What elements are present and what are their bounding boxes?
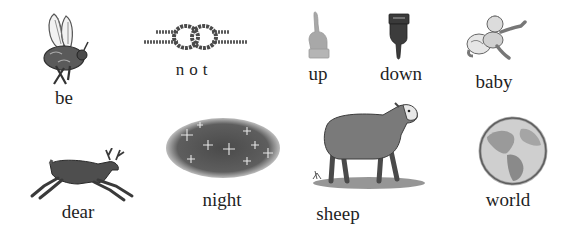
deer-icon: [28, 148, 140, 204]
word-label-night: night: [202, 190, 241, 209]
knot-icon: [142, 22, 252, 54]
hand-pointing-up-icon: [303, 10, 333, 62]
word-label-down: down: [380, 64, 422, 83]
globe-icon: [477, 115, 549, 187]
starry-night-icon: [163, 115, 283, 181]
bee-icon: [36, 10, 98, 86]
crawling-baby-icon: [463, 12, 529, 64]
word-label-up: up: [309, 64, 328, 83]
word-label-not: not: [176, 61, 213, 78]
word-label-baby: baby: [476, 72, 513, 91]
word-label-dear: dear: [62, 202, 95, 221]
word-label-be: be: [55, 88, 73, 107]
sheep-icon: [303, 95, 429, 191]
word-label-world: world: [486, 190, 530, 209]
word-label-sheep: sheep: [316, 204, 359, 223]
hand-pointing-down-icon: [385, 12, 413, 62]
